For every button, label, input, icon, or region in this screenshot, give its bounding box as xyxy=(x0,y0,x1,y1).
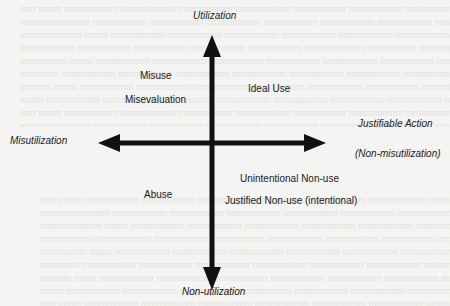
axis-label-left: Misutilization xyxy=(10,135,67,147)
quadrant-ul-item-1: Misuse xyxy=(140,70,172,82)
quadrant-lr-item-2: Justified Non-use (intentional) xyxy=(225,195,357,207)
horizontal-axis-line xyxy=(118,141,306,146)
arrow-left-icon xyxy=(98,134,120,152)
axis-label-bottom: Non-utilization xyxy=(182,286,245,298)
arrow-up-icon xyxy=(203,35,221,57)
axis-label-right-sub: (Non-misutilization) xyxy=(355,148,441,160)
quadrant-ll-item-1: Abuse xyxy=(144,189,172,201)
axis-label-top: Utilization xyxy=(193,10,236,22)
arrow-right-icon xyxy=(304,134,326,152)
axis-label-right: Justifiable Action xyxy=(358,118,433,130)
vertical-axis-line xyxy=(210,55,215,270)
quadrant-ul-item-2: Misevaluation xyxy=(125,94,186,106)
quadrant-lr-item-1: Unintentional Non-use xyxy=(240,173,339,185)
quadrant-ur-item-1: Ideal Use xyxy=(248,83,290,95)
